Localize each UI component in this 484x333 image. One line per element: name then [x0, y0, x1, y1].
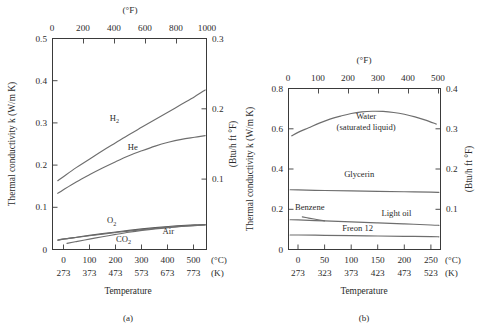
x-tick-label-k: 373 — [83, 268, 97, 278]
right-tick-labels-a: 0.1 0.2 0.3 — [212, 34, 224, 185]
top-tick-labels-b: 0 100 200 300 400 500 — [286, 73, 446, 83]
y-tick-label: 0.4 — [272, 164, 284, 174]
y2-tick-label: 0.3 — [446, 124, 458, 134]
y-axis-title-b: Thermal conductivity k (W/m K) — [245, 107, 256, 231]
right-ticks-a — [202, 39, 207, 180]
top-tick-label: 200 — [341, 73, 355, 83]
x-tick-label-k: 373 — [344, 268, 358, 278]
x-unit-c-a: (°C) — [211, 255, 227, 265]
y2-axis-title-b: (Btu/h ft °F) — [464, 146, 475, 192]
curve-label-air: Air — [163, 226, 175, 236]
curves-a — [58, 90, 205, 243]
y-tick-label: 0.3 — [36, 118, 48, 128]
bottom-ticks-a — [64, 245, 194, 250]
curve-label-water-sub: (saturated liquid) — [337, 122, 396, 132]
y2-tick-label: 0.1 — [446, 204, 458, 214]
x-tick-label-c: 200 — [109, 255, 123, 265]
left-ticks-a — [53, 39, 58, 250]
top-tick-label: 800 — [169, 23, 183, 33]
curve-label-text: Air — [163, 226, 175, 236]
top-tick-label: 200 — [76, 23, 90, 33]
right-tick-labels-b: 0.1 0.2 0.3 0.4 — [446, 84, 458, 215]
x-tick-label-k: 573 — [135, 268, 149, 278]
x-tick-label-k: 473 — [109, 268, 123, 278]
curve-label-water: Water — [356, 111, 376, 121]
curve-label-freon-12: Freon 12 — [342, 223, 373, 233]
y-tick-label: 0.2 — [36, 160, 48, 170]
top-tick-labels-a: 0 200 400 600 800 1000 — [50, 23, 217, 33]
x-tick-label-k: 673 — [161, 268, 175, 278]
curve-label-light-oil: Light oil — [381, 208, 411, 218]
x-tick-label-k: 273 — [291, 268, 305, 278]
y2-tick-label: 0.2 — [212, 104, 224, 114]
bottom-ticks-b — [298, 245, 431, 250]
y-tick-label: 0.4 — [36, 76, 48, 86]
y-axis-title-a: Thermal conductivity k (W/m K) — [7, 82, 18, 206]
x-tick-label-c: 0 — [296, 255, 301, 265]
left-tick-labels-a: 0 0.1 0.2 0.3 0.4 0.5 — [36, 34, 48, 255]
x-tick-label-c: 200 — [397, 255, 411, 265]
x-tick-label-k: 773 — [187, 268, 201, 278]
liquids-chart-svg: (°F) 0 100 200 300 400 500 — [244, 0, 484, 333]
curve-glycerin — [290, 190, 439, 193]
curve-labels-b: Water (saturated liquid) Glycerin Benzen… — [295, 111, 412, 233]
x-axis-title-a: Temperature — [104, 286, 151, 296]
curve-label-subscript: 2 — [116, 117, 119, 124]
left-ticks-b — [289, 89, 294, 250]
x-unit-c-b: (°C) — [445, 255, 461, 265]
top-tick-label: 300 — [371, 73, 385, 83]
x-tick-label-c: 250 — [424, 255, 438, 265]
top-ticks-a — [53, 39, 207, 44]
bottom-tick-labels-k-b: 273 323 373 423 473 523 (K) — [291, 268, 458, 278]
y-tick-label: 0.1 — [36, 202, 48, 212]
curve-freon-12 — [290, 235, 439, 237]
curve-co2 — [67, 225, 205, 243]
caption-b: (b) — [359, 313, 370, 323]
x-unit-k-b: (K) — [445, 268, 458, 278]
y-tick-label: 0.6 — [272, 124, 284, 134]
x-tick-label-k: 423 — [371, 268, 385, 278]
y2-tick-label: 0.3 — [212, 34, 224, 44]
x-unit-k-a: (K) — [211, 268, 224, 278]
thermal-conductivity-figure: (°F) 0 200 400 600 800 1000 — [0, 0, 484, 333]
x-tick-label-k: 523 — [424, 268, 438, 278]
y-tick-label: 0.5 — [36, 34, 48, 44]
curve-label-benzene: Benzene — [295, 202, 325, 212]
x-tick-label-c: 300 — [135, 255, 149, 265]
x-tick-label-c: 150 — [371, 255, 385, 265]
x-tick-label-c: 50 — [320, 255, 330, 265]
y2-tick-label: 0.1 — [212, 174, 224, 184]
x-tick-label-c: 100 — [344, 255, 358, 265]
y-tick-label: 0 — [42, 245, 47, 255]
x-tick-label-c: 400 — [161, 255, 175, 265]
bottom-tick-labels-c-b: 0 50 100 150 200 250 (°C) — [296, 255, 461, 265]
y-tick-label: 0.8 — [272, 84, 284, 94]
chart-panel-gases: (°F) 0 200 400 600 800 1000 — [0, 0, 244, 333]
x-tick-label-c: 100 — [83, 255, 97, 265]
x-tick-label-k: 323 — [318, 268, 332, 278]
x-tick-label-k: 273 — [57, 268, 71, 278]
top-tick-label: 400 — [107, 23, 121, 33]
curve-label-text: CO — [116, 234, 128, 244]
top-tick-label: 1000 — [198, 23, 217, 33]
x-tick-label-c: 500 — [187, 255, 201, 265]
y2-tick-label: 0.4 — [446, 84, 458, 94]
curve-label-he: He — [128, 142, 138, 152]
curve-label-subscript: 2 — [128, 238, 131, 245]
top-ticks-b — [289, 89, 439, 94]
x-tick-label-k: 473 — [397, 268, 411, 278]
y-tick-label: 0.2 — [272, 204, 284, 214]
curve-label-o2: O2 — [107, 215, 116, 226]
x-axis-title-b: Temperature — [340, 286, 387, 296]
top-tick-label: 400 — [401, 73, 415, 83]
caption-a: (a) — [123, 313, 133, 323]
x-tick-label-c: 0 — [61, 255, 66, 265]
top-tick-label: 600 — [138, 23, 152, 33]
curve-labels-a: H2 He O2 Air CO2 — [107, 113, 174, 245]
top-tick-label: 100 — [311, 73, 325, 83]
top-tick-label: 500 — [431, 73, 445, 83]
bottom-tick-labels-k-a: 273 373 473 573 673 773 (K) — [57, 268, 224, 278]
bottom-tick-labels-c-a: 0 100 200 300 400 500 (°C) — [61, 255, 227, 265]
y2-axis-title-a: (Btu/h ft °F) — [228, 121, 239, 167]
top-axis-unit-label-a: (°F) — [123, 5, 138, 15]
